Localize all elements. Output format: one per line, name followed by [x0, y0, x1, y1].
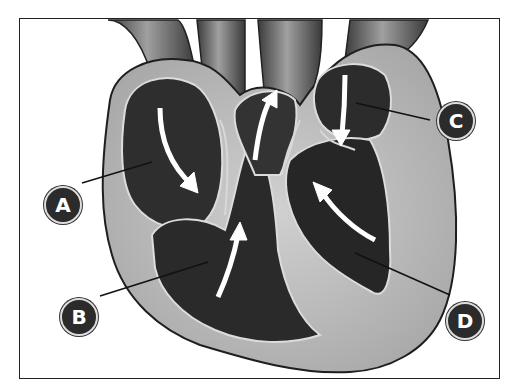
- right-atrium: [122, 78, 222, 229]
- label-c: C: [437, 102, 475, 140]
- label-d: D: [446, 302, 484, 340]
- left-atrium: [314, 64, 391, 140]
- label-a: A: [44, 186, 82, 224]
- label-b: B: [60, 298, 98, 336]
